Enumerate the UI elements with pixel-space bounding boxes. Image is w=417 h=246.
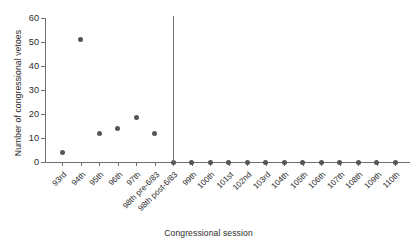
data-point: [374, 160, 379, 165]
y-tick-label: 10: [29, 133, 39, 143]
data-point: [263, 160, 268, 165]
data-point: [97, 131, 102, 136]
x-tick-mark: [99, 162, 100, 166]
y-tick-mark: [41, 42, 45, 43]
chadha-divider-line: [173, 16, 174, 162]
y-tick-label: 60: [29, 13, 39, 23]
y-tick-label: 50: [29, 37, 39, 47]
data-point: [78, 37, 83, 42]
data-point: [60, 150, 65, 155]
data-point: [115, 126, 120, 131]
data-point: [189, 160, 194, 165]
y-tick-label: 40: [29, 61, 39, 71]
data-point: [337, 160, 342, 165]
data-point: [300, 160, 305, 165]
y-tick-mark: [41, 138, 45, 139]
y-tick-mark: [41, 114, 45, 115]
y-tick-label: 0: [34, 157, 39, 167]
x-tick-mark: [62, 162, 63, 166]
y-tick-mark: [41, 66, 45, 67]
y-tick-mark: [41, 162, 45, 163]
y-tick-label: 30: [29, 85, 39, 95]
y-axis-title: Number of congressional vetoes: [13, 13, 23, 173]
y-tick-label: 20: [29, 109, 39, 119]
data-point: [245, 160, 250, 165]
data-point: [393, 160, 398, 165]
y-tick-mark: [41, 90, 45, 91]
y-tick-mark: [41, 18, 45, 19]
plot-area: 0102030405060 93rd94th95th96th97th98th p…: [46, 18, 410, 162]
x-tick-mark: [136, 162, 137, 166]
x-tick-mark: [118, 162, 119, 166]
data-point: [319, 160, 324, 165]
data-point: [208, 160, 213, 165]
data-point: [282, 160, 287, 165]
x-tick-mark: [155, 162, 156, 166]
scatter-chart: Number of congressional vetoes Congressi…: [0, 0, 417, 246]
data-point: [226, 160, 231, 165]
data-point: [356, 160, 361, 165]
x-tick-mark: [81, 162, 82, 166]
data-point: [152, 131, 157, 136]
y-axis-line: [45, 18, 46, 163]
data-point: [134, 115, 139, 120]
